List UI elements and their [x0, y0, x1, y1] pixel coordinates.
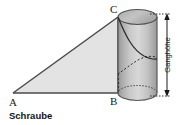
vertex-label-b: B — [110, 95, 117, 107]
dimension-label: Ganghöhe — [163, 37, 172, 72]
vertex-label-a: A — [9, 96, 17, 108]
cylinder-top-ellipse — [118, 10, 157, 25]
cylinder — [118, 10, 157, 101]
figure-canvas: Ganghöhe A B C Schraube — [0, 0, 182, 125]
screw-pitch-diagram: Ganghöhe A B C Schraube — [0, 0, 182, 125]
vertex-label-c: C — [110, 3, 117, 15]
figure-caption: Schraube — [9, 110, 52, 121]
